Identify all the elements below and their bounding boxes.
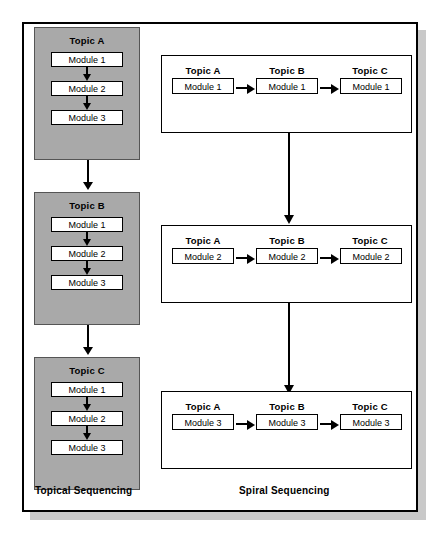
topic-b-arrow-2-3 — [35, 261, 139, 275]
topic-b-module-2[interactable]: Module 2 — [51, 246, 123, 261]
topic-c-module-3[interactable]: Module 3 — [51, 440, 123, 455]
caption-spiral-sequencing: Spiral Sequencing — [239, 485, 330, 496]
spiral-row-1-module-c[interactable]: Module 1 — [340, 78, 402, 94]
spiral-row-2-module-c[interactable]: Module 2 — [340, 248, 402, 264]
spiral-row-3-topic-b-label: Topic B — [257, 401, 317, 412]
spiral-row-3-topic-c-label: Topic C — [340, 401, 400, 412]
spiral-row-1-module-b[interactable]: Module 1 — [256, 78, 318, 94]
arrow-head-right-icon — [247, 84, 255, 94]
spiral-row-2-modules: Module 2 Module 2 Module 2 — [162, 248, 411, 270]
spiral-row-1-arrow-a-b — [236, 84, 256, 94]
topic-c-module-3-wrap: Module 3 — [35, 440, 139, 455]
topic-a-arrow-1-2 — [35, 67, 139, 81]
topic-b-arrow-1-2 — [35, 232, 139, 246]
topic-b-module-1[interactable]: Module 1 — [51, 217, 123, 232]
topic-c-arrow-1-2 — [35, 397, 139, 411]
topic-c-module-2[interactable]: Module 2 — [51, 411, 123, 426]
topic-c-arrow-2-3 — [35, 426, 139, 440]
topic-b-module-2-wrap: Module 2 — [35, 246, 139, 261]
arrow-shaft — [87, 325, 89, 349]
arrow-head-down-icon — [83, 268, 91, 275]
topic-c-module-1-wrap: Module 1 — [35, 382, 139, 397]
diagram-outer-frame: Topic A Module 1 Module 2 Module 3 — [22, 22, 418, 512]
spiral-row-3-modules: Module 3 Module 3 Module 3 — [162, 414, 411, 436]
topic-a-arrow-2-3 — [35, 96, 139, 110]
arrow-head-down-icon — [83, 182, 93, 190]
arrow-head-down-icon — [83, 103, 91, 110]
topic-group-b: Topic B Module 1 Module 2 Module 3 — [34, 192, 140, 325]
topic-a-module-3-wrap: Module 3 — [35, 110, 139, 125]
topic-b-module-3[interactable]: Module 3 — [51, 275, 123, 290]
topic-a-module-2[interactable]: Module 2 — [51, 81, 123, 96]
spiral-row-3-module-b[interactable]: Module 3 — [256, 414, 318, 430]
spiral-row-3-topics: Topic A Topic B Topic C — [162, 392, 411, 408]
spiral-row-2-arrow-a-b — [236, 254, 256, 264]
spiral-row-2-module-a[interactable]: Module 2 — [172, 248, 234, 264]
topic-a-module-2-wrap: Module 2 — [35, 81, 139, 96]
topic-a-module-1[interactable]: Module 1 — [51, 52, 123, 67]
spiral-row-1-topic-b-label: Topic B — [257, 65, 317, 76]
topic-group-a-title: Topic A — [35, 35, 139, 46]
topic-b-module-3-wrap: Module 3 — [35, 275, 139, 290]
arrow-head-down-icon — [83, 74, 91, 81]
spiral-row-1-topic-a-label: Topic A — [173, 65, 233, 76]
spiral-row-2-arrow-b-c — [320, 254, 340, 264]
topic-a-module-3[interactable]: Module 3 — [51, 110, 123, 125]
spiral-row-1-topic-c-label: Topic C — [340, 65, 400, 76]
topic-group-a: Topic A Module 1 Module 2 Module 3 — [34, 27, 140, 160]
topic-group-b-title: Topic B — [35, 200, 139, 211]
spiral-row-3: Topic A Topic B Topic C Module 3 Module … — [161, 391, 412, 469]
arrow-head-down-icon — [83, 347, 93, 355]
topic-a-module-1-wrap: Module 1 — [35, 52, 139, 67]
spiral-row-1: Topic A Topic B Topic C Module 1 Module … — [161, 55, 412, 133]
spiral-row-2-topic-c-label: Topic C — [340, 235, 400, 246]
spiral-row-2-topic-b-label: Topic B — [257, 235, 317, 246]
arrow-head-right-icon — [247, 254, 255, 264]
topic-group-c-title: Topic C — [35, 365, 139, 376]
spiral-row-2-topics: Topic A Topic B Topic C — [162, 226, 411, 242]
spiral-row-3-arrow-b-c — [320, 420, 340, 430]
arrow-head-down-icon — [83, 239, 91, 246]
spiral-row-2-topic-a-label: Topic A — [173, 235, 233, 246]
spiral-row-1-module-a[interactable]: Module 1 — [172, 78, 234, 94]
arrow-head-right-icon — [331, 420, 339, 430]
spiral-row-1-modules: Module 1 Module 1 Module 1 — [162, 78, 411, 100]
topic-c-module-2-wrap: Module 2 — [35, 411, 139, 426]
spiral-row-1-arrow-b-c — [320, 84, 340, 94]
spiral-row-3-arrow-a-b — [236, 420, 256, 430]
spiral-row-3-topic-a-label: Topic A — [173, 401, 233, 412]
arrow-shaft — [288, 133, 290, 217]
arrow-shaft — [87, 160, 89, 184]
arrow-head-right-icon — [331, 254, 339, 264]
arrow-head-right-icon — [247, 420, 255, 430]
arrow-head-down-icon — [284, 215, 294, 224]
spiral-row-3-module-a[interactable]: Module 3 — [172, 414, 234, 430]
arrow-head-right-icon — [331, 84, 339, 94]
topic-group-c: Topic C Module 1 Module 2 Module 3 — [34, 357, 140, 490]
spiral-row-3-module-c[interactable]: Module 3 — [340, 414, 402, 430]
caption-topical-sequencing: Topical Sequencing — [35, 485, 132, 496]
spiral-row-2: Topic A Topic B Topic C Module 2 Module … — [161, 225, 412, 303]
topic-c-module-1[interactable]: Module 1 — [51, 382, 123, 397]
spiral-row-1-topics: Topic A Topic B Topic C — [162, 56, 411, 72]
arrow-head-down-icon — [83, 404, 91, 411]
spiral-row-2-module-b[interactable]: Module 2 — [256, 248, 318, 264]
diagram-screenshot: Topic A Module 1 Module 2 Module 3 — [0, 0, 441, 557]
arrow-shaft — [288, 303, 290, 387]
arrow-head-down-icon — [83, 433, 91, 440]
topic-b-module-1-wrap: Module 1 — [35, 217, 139, 232]
